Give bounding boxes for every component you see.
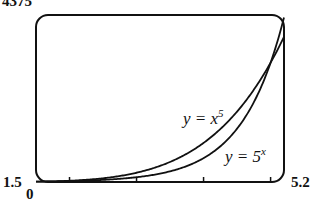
label-y-equals-5x: y = 5x — [225, 145, 266, 167]
plot-area — [0, 0, 310, 201]
label-y-equals-x5: y = x5 — [183, 107, 224, 129]
chart: 4375 1.5 0 5.2 y = x5 y = 5x — [0, 0, 310, 201]
